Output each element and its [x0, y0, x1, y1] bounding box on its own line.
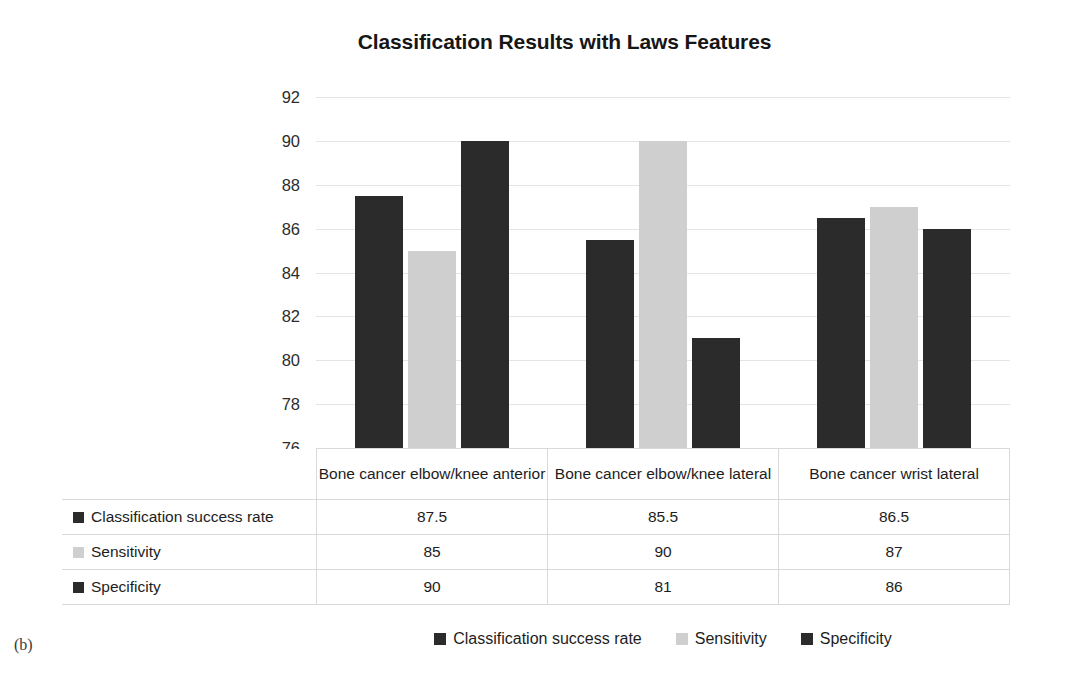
legend-color-swatch-icon — [676, 633, 688, 645]
legend-item-label: Specificity — [820, 630, 892, 648]
table-cell: 86.5 — [779, 500, 1010, 535]
legend-item: Classification success rate — [434, 630, 642, 648]
y-axis-tick-label: 80 — [282, 351, 300, 370]
y-axis-tick-label: 86 — [282, 219, 300, 238]
bar — [870, 207, 918, 448]
figure-label: (b) — [14, 636, 33, 654]
chart-title: Classification Results with Laws Feature… — [0, 30, 1091, 54]
legend-item: Sensitivity — [676, 630, 767, 648]
legend-item-label: Sensitivity — [695, 630, 767, 648]
table-row: Specificity908186 — [62, 570, 1010, 605]
y-axis-tick-label: 78 — [282, 395, 300, 414]
table-cell: 86 — [779, 570, 1010, 605]
table-header-row: Bone cancer elbow/knee anteriorBone canc… — [62, 449, 1010, 500]
series-color-swatch-icon — [73, 512, 84, 523]
y-axis-tick-label: 84 — [282, 263, 300, 282]
bar — [817, 218, 865, 448]
table-column-header: Bone cancer elbow/knee anterior — [317, 449, 548, 500]
y-axis-tick-label: 92 — [282, 88, 300, 107]
table-corner-cell — [62, 449, 317, 500]
table-cell: 87.5 — [317, 500, 548, 535]
y-axis: 929088868482807876 — [262, 97, 308, 448]
legend-color-swatch-icon — [801, 633, 813, 645]
data-table: Bone cancer elbow/knee anteriorBone canc… — [62, 448, 1010, 605]
table-row: Sensitivity859087 — [62, 535, 1010, 570]
y-axis-tick-label: 90 — [282, 131, 300, 150]
gridline — [316, 97, 1010, 98]
series-color-swatch-icon — [73, 547, 84, 558]
bar — [461, 141, 509, 448]
bar — [692, 338, 740, 448]
table-row-label: Sensitivity — [62, 535, 317, 570]
chart-legend: Classification success rateSensitivitySp… — [316, 630, 1010, 648]
table-row-label: Classification success rate — [62, 500, 317, 535]
series-color-swatch-icon — [73, 582, 84, 593]
table-cell: 85 — [317, 535, 548, 570]
bar — [923, 229, 971, 448]
table-cell: 81 — [548, 570, 779, 605]
table-cell: 90 — [548, 535, 779, 570]
table-cell: 85.5 — [548, 500, 779, 535]
table-column-header: Bone cancer elbow/knee lateral — [548, 449, 779, 500]
legend-color-swatch-icon — [434, 633, 446, 645]
table-row: Classification success rate87.585.586.5 — [62, 500, 1010, 535]
y-axis-tick-label: 88 — [282, 175, 300, 194]
table-row-label-text: Sensitivity — [91, 543, 161, 560]
bar — [355, 196, 403, 448]
plot-area — [316, 97, 1010, 448]
legend-item-label: Classification success rate — [453, 630, 642, 648]
table-cell: 87 — [779, 535, 1010, 570]
bar — [586, 240, 634, 448]
legend-item: Specificity — [801, 630, 892, 648]
bar — [408, 251, 456, 448]
table-row-label-text: Specificity — [91, 578, 161, 595]
y-axis-tick-label: 82 — [282, 307, 300, 326]
table-column-header: Bone cancer wrist lateral — [779, 449, 1010, 500]
bar — [639, 141, 687, 448]
table-row-label-text: Classification success rate — [91, 508, 274, 525]
table-cell: 90 — [317, 570, 548, 605]
table-row-label: Specificity — [62, 570, 317, 605]
